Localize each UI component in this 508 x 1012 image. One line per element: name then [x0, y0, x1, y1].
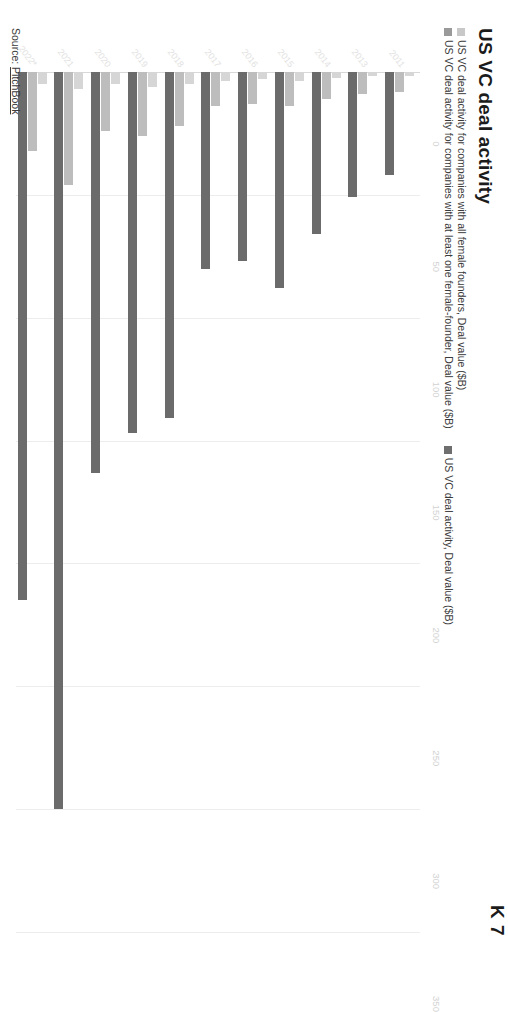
- bar: [64, 72, 73, 185]
- bar: [368, 72, 377, 76]
- bar: [175, 72, 184, 126]
- cropped-page-header: K 7: [486, 905, 508, 936]
- bar: [285, 72, 294, 106]
- bar: [201, 72, 210, 269]
- bar: [395, 72, 404, 92]
- legend-label: US VC deal activity for companies with a…: [456, 40, 468, 390]
- bar: [101, 72, 110, 131]
- bar: [38, 72, 47, 84]
- x-tick-label: 200: [431, 627, 442, 643]
- y-tick-label: 2016: [239, 47, 259, 69]
- bar: [332, 72, 341, 78]
- bar-group: [347, 72, 384, 932]
- y-tick-label: 2011: [387, 48, 407, 69]
- source-link[interactable]: PitchBook: [10, 67, 22, 114]
- bar: [258, 72, 267, 79]
- x-tick-label: 100: [431, 382, 442, 398]
- x-tick-label: 250: [431, 750, 442, 766]
- bar: [111, 72, 120, 84]
- bar: [128, 72, 137, 433]
- bar-group: [126, 72, 163, 932]
- bar-group: [236, 72, 273, 932]
- source-note: Source: PitchBook: [10, 28, 22, 114]
- bar-group: [53, 72, 90, 932]
- x-tick-label: 150: [431, 505, 442, 521]
- bar: [221, 72, 230, 81]
- bar: [275, 72, 284, 288]
- bar: [385, 72, 394, 175]
- bar-group: [200, 72, 237, 932]
- x-tick-label: 350: [431, 996, 442, 1012]
- bar: [28, 72, 37, 151]
- gridline: [16, 932, 420, 933]
- y-tick-label: 2019: [129, 47, 149, 69]
- legend-swatch-icon: [457, 28, 465, 36]
- bar: [211, 72, 220, 106]
- y-tick-label: 2013: [350, 47, 370, 69]
- y-tick-label: 2020: [93, 47, 113, 69]
- source-prefix: Source:: [10, 28, 22, 64]
- y-tick-label: 2018: [166, 47, 186, 69]
- bar: [322, 72, 331, 99]
- bar: [238, 72, 247, 261]
- bar: [54, 72, 63, 809]
- legend-label: US VC deal activity, Deal value ($B): [443, 458, 455, 625]
- x-tick-label: 50: [431, 262, 442, 273]
- bar-group: [310, 72, 347, 932]
- bar: [185, 72, 194, 84]
- x-tick-label: 300: [431, 873, 442, 889]
- bar: [295, 72, 304, 81]
- bar: [148, 72, 157, 87]
- bar-group: [16, 72, 53, 932]
- y-axis-category-labels: 2011201320142015201620172018201920202021…: [16, 0, 420, 72]
- legend-swatch-icon: [444, 28, 452, 36]
- chart-legend: US VC deal activity for companies with a…: [442, 28, 468, 968]
- bar: [18, 72, 27, 600]
- bar: [138, 72, 147, 136]
- y-tick-label: 2014: [313, 47, 333, 69]
- bar-group: [89, 72, 126, 932]
- bar: [405, 72, 414, 76]
- legend-item-at-least-one-female-founder: US VC deal activity for companies with a…: [442, 28, 455, 429]
- y-tick-label: 2017: [203, 47, 223, 69]
- bar: [165, 72, 174, 418]
- bar-group: [163, 72, 200, 932]
- plot-area: [16, 72, 420, 932]
- x-tick-label: 0: [431, 141, 442, 146]
- bar: [91, 72, 100, 473]
- bar: [248, 72, 257, 104]
- y-tick-label: 2021: [56, 47, 76, 69]
- legend-label: US VC deal activity for companies with a…: [443, 40, 455, 429]
- legend-item-total-deal-activity: US VC deal activity, Deal value ($B): [442, 446, 455, 625]
- bar: [74, 72, 83, 89]
- bar-group: [383, 72, 420, 932]
- bar-group: [273, 72, 310, 932]
- legend-swatch-icon: [444, 446, 452, 454]
- bar: [312, 72, 321, 234]
- y-tick-label: 2015: [276, 47, 296, 69]
- legend-item-all-female-founders: US VC deal activity for companies with a…: [455, 28, 468, 390]
- bar: [358, 72, 367, 94]
- x-axis-tick-labels: 050100150200250300350: [422, 72, 442, 932]
- bar: [348, 72, 357, 197]
- page-title: US VC deal activity: [474, 28, 496, 204]
